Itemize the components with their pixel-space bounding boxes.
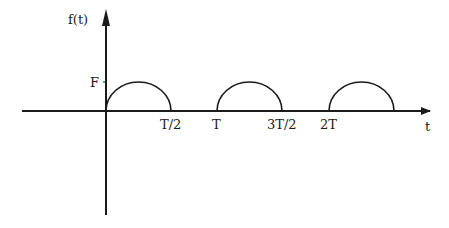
x-tick-label-half-t: T/2 (160, 118, 181, 131)
y-axis-label: f(t) (68, 13, 88, 26)
amplitude-label: F (90, 76, 99, 89)
x-tick-label-t: T (212, 118, 221, 131)
pulse-1 (106, 82, 171, 111)
x-axis-label: t (425, 120, 430, 133)
half-sine-pulse-diagram (0, 0, 449, 228)
pulse-3 (329, 82, 394, 111)
pulse-2 (217, 82, 282, 111)
x-tick-label-three-half-t: 3T/2 (267, 118, 297, 131)
f-axis-arrow-icon (102, 9, 110, 26)
x-tick-label-2t: 2T (320, 118, 337, 131)
